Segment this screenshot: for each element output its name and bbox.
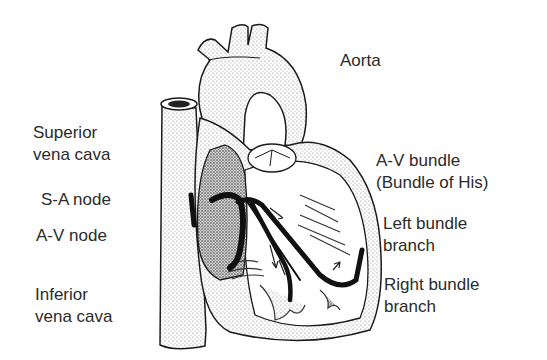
label-aorta: Aorta bbox=[340, 50, 381, 72]
label-superior-line1: Superior bbox=[33, 122, 111, 144]
label-av-bundle-line2: (Bundle of His) bbox=[376, 172, 488, 194]
label-right-bundle-branch: Right bundle branch bbox=[384, 274, 479, 318]
label-inferior-line1: Inferior bbox=[35, 284, 113, 306]
label-av-bundle: A-V bundle (Bundle of His) bbox=[376, 150, 488, 194]
label-left-line1: Left bundle bbox=[383, 213, 467, 235]
label-inferior-vena-cava: Inferior vena cava bbox=[35, 284, 113, 328]
label-left-line2: branch bbox=[383, 235, 467, 257]
label-left-bundle-branch: Left bundle branch bbox=[383, 213, 467, 257]
label-right-line1: Right bundle bbox=[384, 274, 479, 296]
label-sa-node: S-A node bbox=[41, 189, 111, 211]
label-superior-vena-cava: Superior vena cava bbox=[33, 122, 111, 166]
label-av-bundle-line1: A-V bundle bbox=[376, 150, 488, 172]
label-inferior-line2: vena cava bbox=[35, 306, 113, 328]
label-av-node: A-V node bbox=[36, 225, 107, 247]
label-right-line2: branch bbox=[384, 296, 479, 318]
label-superior-line2: vena cava bbox=[33, 144, 111, 166]
